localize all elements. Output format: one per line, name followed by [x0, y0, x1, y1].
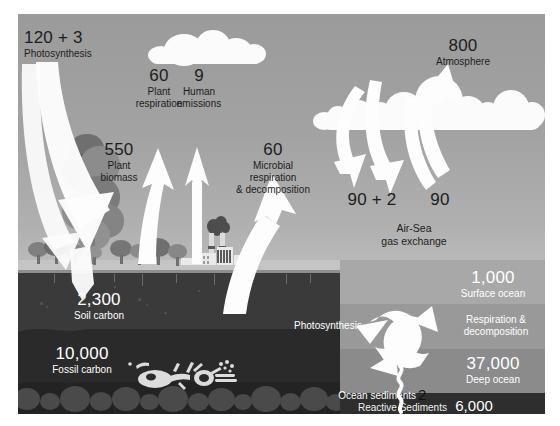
value-photosynthesis-land: 120 + 3	[24, 28, 154, 47]
label-reactive-sediments: Reactive Sediments 6,000	[358, 397, 493, 414]
label-air-sea-outgassing: 90	[418, 190, 462, 209]
value-air-sea-outgassing: 90	[418, 190, 462, 209]
value-air-sea-uptake: 90 + 2	[336, 190, 408, 209]
label-plant-biomass: 550 Plant biomass	[88, 140, 150, 183]
value-fossil-carbon: 10,000	[32, 344, 132, 363]
label-deep-ocean: 37,000 Deep ocean	[448, 354, 538, 385]
label-human-emissions: 9 Human emissions	[166, 66, 232, 109]
caption-air-sea-1: Air-Sea	[396, 222, 431, 234]
caption-microbial-1: Microbial	[214, 160, 332, 171]
value-soil-carbon: 2,300	[54, 290, 144, 309]
label-air-sea-uptake: 90 + 2	[336, 190, 408, 209]
label-ocean-respiration: Respiration & decomposition	[450, 314, 542, 337]
caption-ocean-respiration-1: Respiration &	[466, 314, 526, 325]
caption-deep-ocean: Deep ocean	[448, 374, 538, 385]
caption-ocean-photosynthesis: Photosynthesis	[294, 320, 362, 331]
caption-soil-carbon: Soil carbon	[54, 310, 144, 321]
caption-air-sea-2: gas exchange	[381, 235, 446, 247]
caption-atmosphere: Atmosphere	[418, 56, 508, 67]
caption-human-emissions-2: emissions	[166, 98, 232, 109]
caption-plant-biomass-2: biomass	[88, 172, 150, 183]
label-soil-carbon: 2,300 Soil carbon	[54, 290, 144, 321]
cloud-small	[146, 28, 266, 66]
label-surface-ocean: 1,000 Surface ocean	[450, 268, 536, 299]
smoke-puff	[221, 222, 230, 233]
caption-ocean-respiration-2: decomposition	[464, 326, 528, 337]
caption-reactive-sediments: Reactive Sediments	[358, 402, 447, 413]
caption-surface-ocean: Surface ocean	[450, 288, 536, 299]
label-atmosphere: 800 Atmosphere	[418, 36, 508, 67]
value-microbial-respiration: 60	[214, 140, 332, 159]
value-reactive-sediments: 6,000	[455, 397, 493, 414]
value-deep-ocean: 37,000	[448, 354, 538, 373]
value-surface-ocean: 1,000	[450, 268, 536, 287]
caption-photosynthesis-land: Photosynthesis	[24, 48, 154, 59]
bedrock-layer	[18, 382, 340, 414]
cloud-large	[313, 72, 545, 134]
carbon-cycle-figure: 120 + 3 Photosynthesis 60 Plant respirat…	[0, 0, 560, 426]
label-ocean-photosynthesis: Photosynthesis	[280, 320, 376, 332]
caption-microbial-2: respiration	[214, 172, 332, 183]
caption-human-emissions-1: Human	[166, 86, 232, 97]
caption-microbial-3: & decomposition	[214, 184, 332, 195]
diagram-canvas: 120 + 3 Photosynthesis 60 Plant respirat…	[18, 14, 545, 414]
value-human-emissions: 9	[166, 66, 232, 85]
value-atmosphere: 800	[418, 36, 508, 55]
label-photosynthesis-land: 120 + 3 Photosynthesis	[24, 28, 154, 59]
caption-plant-biomass-1: Plant	[88, 160, 150, 171]
label-microbial-respiration: 60 Microbial respiration & decomposition	[214, 140, 332, 196]
label-air-sea-exchange: Air-Sea gas exchange	[366, 222, 462, 248]
value-plant-biomass: 550	[88, 140, 150, 159]
label-fossil-carbon: 10,000 Fossil carbon	[32, 344, 132, 375]
caption-fossil-carbon: Fossil carbon	[32, 364, 132, 375]
